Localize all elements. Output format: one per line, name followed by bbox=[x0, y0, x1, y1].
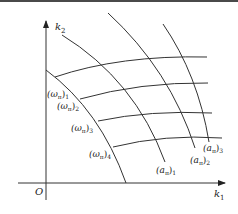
omega-curve-2 bbox=[80, 83, 208, 99]
a-label-2: (aπ)2 bbox=[190, 155, 210, 166]
a-label-3: (aπ)3 bbox=[203, 143, 223, 154]
omega-label-4: (ωπ)4 bbox=[89, 149, 111, 160]
omega-curve-3 bbox=[98, 112, 212, 121]
omega-label-3: (ωπ)3 bbox=[71, 123, 93, 134]
omega-label-2: (ωπ)2 bbox=[57, 101, 79, 112]
curvilinear-grid-diagram: k2 k1 O (ωπ)1 (ωπ)2 (ωπ)3 (ωπ)4 (aπ)1 (a… bbox=[0, 0, 238, 214]
a-label-1: (aπ)1 bbox=[156, 165, 176, 176]
origin-label: O bbox=[35, 186, 43, 197]
k1-axis-label: k1 bbox=[214, 188, 225, 202]
omega-label-1: (ωπ)1 bbox=[47, 89, 69, 100]
a-curve-2 bbox=[108, 13, 195, 148]
k2-axis-label: k2 bbox=[55, 21, 66, 35]
